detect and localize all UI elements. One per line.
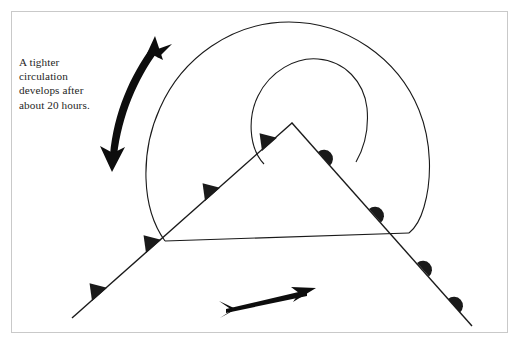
isobar-group <box>146 22 430 241</box>
weather-diagram-figure: A tighter circulation develops after abo… <box>0 0 525 347</box>
motion-arrow <box>219 287 316 318</box>
low-pressure-center <box>291 122 293 124</box>
warm-front-bumps <box>318 146 467 312</box>
motion-arrow-shaft <box>226 290 307 313</box>
warm-front-line <box>292 123 472 326</box>
warm-sector-boundary <box>165 233 409 241</box>
tighter-circulation-note: A tighter circulation develops after abo… <box>19 55 139 112</box>
inner-isobar <box>251 59 367 164</box>
diagram-canvas <box>0 0 525 347</box>
outer-isobar <box>146 22 430 241</box>
warm-front <box>292 123 472 326</box>
